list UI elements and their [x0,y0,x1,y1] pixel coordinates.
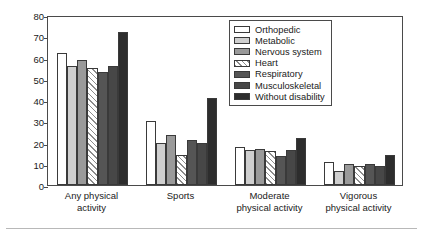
bar [118,32,128,185]
x-axis-category-label: Vigorousphysical activity [300,190,417,213]
bar [245,150,255,185]
bar [98,72,108,185]
legend-swatch-icon [234,26,250,33]
bar [235,147,245,185]
legend-item-label: Metabolic [255,36,295,46]
bar [286,150,296,185]
bar-group [324,17,395,185]
y-axis-tick-label: 60 [14,55,44,65]
bar [354,166,364,185]
legend-item-label: Nervous system [255,47,322,57]
legend-item: Without disability [234,91,325,102]
bar [57,53,67,185]
y-axis-tick-label: 30 [14,118,44,128]
bar [265,151,275,185]
y-axis-tick-label: 10 [14,161,44,171]
legend-swatch-icon [234,48,250,55]
bar [156,143,166,186]
page-rule-divider [6,228,417,229]
chart-legend: OrthopedicMetabolicNervous systemHeartRe… [229,20,332,106]
legend-item: Respiratory [234,69,325,80]
bar [67,66,77,185]
legend-item-label: Respiratory [255,69,303,79]
bar-group [146,17,217,185]
bar [87,68,97,185]
legend-item: Metabolic [234,35,325,46]
legend-item: Nervous system [234,46,325,57]
bar [176,155,186,185]
y-axis-tick-label: 80 [14,12,44,22]
legend-swatch-icon [234,71,250,78]
bar [375,166,385,185]
legend-item: Orthopedic [234,24,325,35]
bar [296,138,306,185]
legend-item-label: Heart [255,58,278,68]
bar [166,135,176,185]
y-axis-tick-label: 70 [14,33,44,43]
y-axis-tick-label: 50 [14,76,44,86]
bar [77,60,87,185]
bar [187,140,197,185]
bar [255,149,265,185]
bars-layer [48,17,402,185]
bar [207,98,217,185]
bar [146,121,156,185]
legend-item: Musculoskeletal [234,80,325,91]
bar-group [57,17,128,185]
bar [324,162,334,185]
x-axis-category-label-line: physical activity [300,202,417,214]
legend-item: Heart [234,58,325,69]
bar [385,155,395,185]
legend-swatch-icon [234,37,250,44]
legend-item-label: Orthopedic [255,25,300,35]
legend-swatch-icon [234,93,250,100]
x-axis-category-label-line: activity [33,202,150,214]
y-axis-tick-label: 40 [14,97,44,107]
bar [365,164,375,185]
bar [276,156,286,185]
y-axis-tick-label: 20 [14,140,44,150]
bar [197,143,207,186]
legend-swatch-icon [234,82,250,89]
legend-swatch-icon [234,60,250,67]
bar-chart-figure: Percent 01020304050607080 Any physicalac… [0,0,423,237]
plot-area: Percent 01020304050607080 [47,16,403,186]
bar [334,171,344,185]
bar [108,66,118,185]
legend-item-label: Without disability [255,92,325,102]
bar [344,164,354,185]
legend-item-label: Musculoskeletal [255,81,321,91]
x-axis-category-label-line: Vigorous [300,190,417,202]
y-axis-tick-mark [44,187,48,188]
